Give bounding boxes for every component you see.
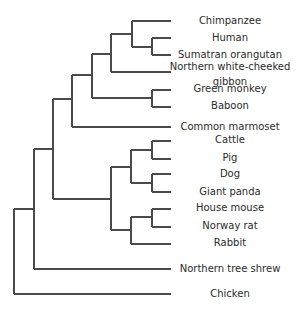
leaf-label-baboon: Baboon <box>165 100 295 111</box>
leaf-label-cattle: Cattle <box>165 134 295 145</box>
leaf-label-common-marmoset: Common marmoset <box>165 121 295 132</box>
leaf-label-dog: Dog <box>165 168 295 179</box>
leaf-label-giant-panda: Giant panda <box>165 186 295 197</box>
tree-branches <box>14 21 171 294</box>
leaf-label-chimpanzee: Chimpanzee <box>165 15 295 26</box>
leaf-label-sumatran-orangutan: Sumatran orangutan <box>165 49 295 60</box>
leaf-label-norway-rat: Norway rat <box>165 220 295 231</box>
leaf-label-house-mouse: House mouse <box>165 202 295 213</box>
leaf-label-pig: Pig <box>165 152 295 163</box>
leaf-label-chicken: Chicken <box>165 288 295 299</box>
leaf-label-human: Human <box>165 32 295 43</box>
leaf-label-northern-tree-shrew: Northern tree shrew <box>165 263 295 274</box>
leaf-label-northern-white-cheeked-gibbon: Northern white-cheeked <box>165 61 295 72</box>
leaf-label-rabbit: Rabbit <box>165 237 295 248</box>
leaf-label-green-monkey: Green monkey <box>165 83 295 94</box>
